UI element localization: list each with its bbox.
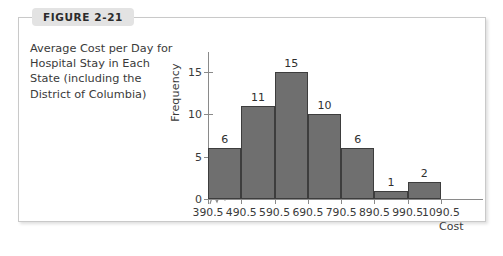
histogram-bar [374, 191, 407, 200]
x-tick-mark [408, 199, 409, 204]
y-tick-label: 10 [188, 108, 202, 121]
figure-number-tab: FIGURE 2-21 [32, 8, 134, 26]
bar-value-label: 1 [388, 176, 395, 189]
x-tick-label: 1090.5 [422, 206, 460, 219]
bar-value-label: 10 [318, 99, 332, 112]
bar-value-label: 11 [251, 91, 265, 104]
x-tick-label: 990.5 [392, 206, 423, 219]
y-axis-title: Frequency [169, 48, 182, 138]
x-tick-mark [308, 199, 309, 204]
histogram-bar [308, 114, 341, 199]
x-tick-label: 890.5 [359, 206, 390, 219]
x-tick-mark [441, 199, 442, 204]
x-tick-label: 790.5 [326, 206, 357, 219]
histogram-bar [241, 106, 274, 200]
x-tick-label: 490.5 [226, 206, 257, 219]
y-tick-mark [204, 72, 213, 73]
x-tick-mark [208, 199, 209, 204]
plot-area: 051015 390.5490.5590.5690.5790.5890.5990… [208, 52, 483, 200]
y-tick-label: 5 [195, 150, 202, 163]
x-tick-mark [241, 199, 242, 204]
histogram-chart: Frequency 051015 390.5490.5590.5690.5790… [160, 38, 490, 223]
histogram-bar [208, 148, 241, 199]
histogram-bar [408, 182, 441, 199]
y-tick-label: 0 [195, 193, 202, 206]
histogram-bar [275, 72, 308, 200]
histogram-bar [341, 148, 374, 199]
x-tick-label: 690.5 [292, 206, 323, 219]
x-axis-title: Cost [439, 220, 463, 233]
bar-value-label: 2 [421, 167, 428, 180]
bar-value-label: 15 [284, 57, 298, 70]
x-tick-mark [374, 199, 375, 204]
x-tick-label: 590.5 [259, 206, 290, 219]
x-tick-label: 390.5 [193, 206, 224, 219]
bar-value-label: 6 [354, 133, 361, 146]
x-tick-mark [341, 199, 342, 204]
y-tick-label: 15 [188, 65, 202, 78]
bar-value-label: 6 [221, 133, 228, 146]
y-tick-mark [204, 114, 213, 115]
x-tick-mark [275, 199, 276, 204]
